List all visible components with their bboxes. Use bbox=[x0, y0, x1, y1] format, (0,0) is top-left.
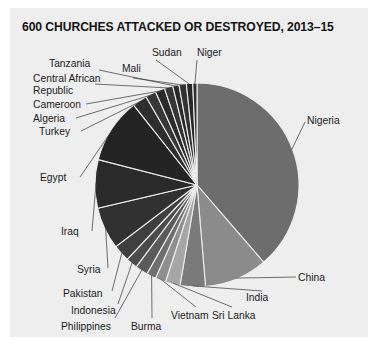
slice-label-central-african-republic: Central African Republic bbox=[33, 73, 101, 96]
slice-label-pakistan: Pakistan bbox=[63, 288, 103, 300]
slice-label-burma: Burma bbox=[131, 321, 161, 333]
slice-label-iraq: Iraq bbox=[61, 226, 79, 238]
slice-label-philippines: Philippines bbox=[61, 321, 111, 333]
slice-label-indonesia: Indonesia bbox=[71, 305, 116, 317]
leader-line-niger bbox=[195, 60, 197, 84]
slice-label-cameroon: Cameroon bbox=[33, 99, 81, 111]
leader-line-nigeria bbox=[292, 122, 305, 150]
slice-label-mali: Mali bbox=[122, 63, 141, 75]
slice-label-sudan: Sudan bbox=[152, 47, 182, 59]
slice-label-algeria: Algeria bbox=[33, 113, 65, 125]
leader-line-philippines bbox=[115, 270, 142, 318]
leader-line-mali bbox=[133, 78, 183, 85]
slice-label-vietnam: Vietnam bbox=[171, 310, 209, 322]
car-label-line2: Republic bbox=[33, 85, 73, 96]
leader-line-indonesia bbox=[118, 262, 132, 304]
slice-label-india: India bbox=[246, 292, 268, 304]
slice-label-niger: Niger bbox=[197, 47, 222, 59]
slice-label-syria: Syria bbox=[77, 264, 100, 276]
slice-label-turkey: Turkey bbox=[39, 126, 70, 138]
leader-line-sudan bbox=[156, 60, 190, 84]
leader-line-india bbox=[193, 286, 262, 291]
slice-label-china: China bbox=[298, 272, 325, 284]
slice-label-nigeria: Nigeria bbox=[307, 115, 340, 127]
slice-label-egypt: Egypt bbox=[40, 172, 66, 184]
leader-line-central-african-republic bbox=[95, 84, 169, 88]
leader-line-pakistan bbox=[112, 253, 122, 291]
leader-line-iraq bbox=[92, 184, 96, 231]
leader-line-china bbox=[236, 277, 296, 278]
car-label-line1: Central African bbox=[33, 73, 101, 84]
slice-label-sri-lanka: Sri Lanka bbox=[212, 310, 256, 322]
slice-label-tanzania: Tanzania bbox=[49, 58, 90, 70]
